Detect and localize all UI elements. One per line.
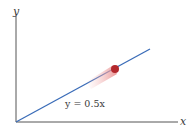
line-equation-label: y = 0.5x xyxy=(64,98,105,109)
ball xyxy=(111,65,119,73)
y-axis-label: y xyxy=(12,5,20,18)
diagram-canvas: y x y = 0.5x xyxy=(0,0,196,132)
line-graph xyxy=(16,49,150,122)
x-axis-label: x xyxy=(180,115,187,128)
